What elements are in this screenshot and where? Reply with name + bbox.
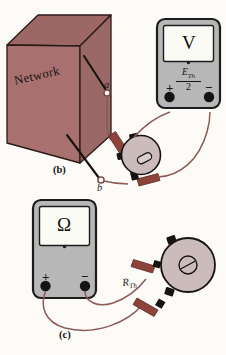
wire-b-to-probe bbox=[104, 181, 128, 184]
panel-caption-b: (b) bbox=[53, 165, 66, 176]
panel-caption-c: (c) bbox=[59, 330, 71, 341]
terminal-label-b: b bbox=[97, 183, 102, 194]
voltmeter-reading-denominator: 2 bbox=[176, 82, 201, 93]
ohmmeter-minus-label: − bbox=[81, 270, 88, 283]
probe-lower-c bbox=[133, 298, 166, 317]
probe-upper-c-body bbox=[131, 260, 155, 274]
voltmeter-display-symbol: V bbox=[182, 33, 196, 52]
network-box bbox=[7, 15, 111, 163]
terminal-node-a bbox=[104, 90, 110, 96]
wire-pot-to-voltmeter-minus bbox=[158, 112, 210, 177]
potentiometer-c bbox=[161, 235, 215, 297]
network-box-front-face bbox=[7, 45, 80, 163]
ohmmeter-pivot-dot bbox=[63, 245, 66, 248]
voltmeter-minus-label: − bbox=[205, 81, 212, 94]
probe-lower-body bbox=[137, 174, 160, 187]
wire-pot-to-voltmeter-plus bbox=[134, 112, 170, 137]
terminal-label-a: a bbox=[104, 80, 109, 91]
probe-lower-c-tip bbox=[155, 299, 166, 309]
voltmeter-plus-label: + bbox=[166, 81, 173, 94]
ohmmeter-display-symbol: Ω bbox=[57, 215, 71, 234]
pot-b-body bbox=[122, 136, 161, 175]
probe-lower-c-body bbox=[133, 298, 158, 317]
figure-canvas bbox=[0, 0, 226, 355]
potentiometer-b bbox=[116, 133, 160, 176]
voltmeter-reading-fraction: ETh 2 bbox=[176, 68, 201, 93]
voltmeter-reading-numerator: ETh bbox=[176, 68, 201, 80]
thevenin-measurement-figure: Network a b (b) (c) V ETh 2 + − Ω + − RT… bbox=[0, 0, 226, 355]
resistance-label-rth: RTh bbox=[122, 277, 137, 291]
ohmmeter-plus-label: + bbox=[42, 270, 49, 283]
voltmeter-pivot-dot bbox=[187, 61, 190, 64]
probe-upper-c bbox=[131, 260, 162, 274]
